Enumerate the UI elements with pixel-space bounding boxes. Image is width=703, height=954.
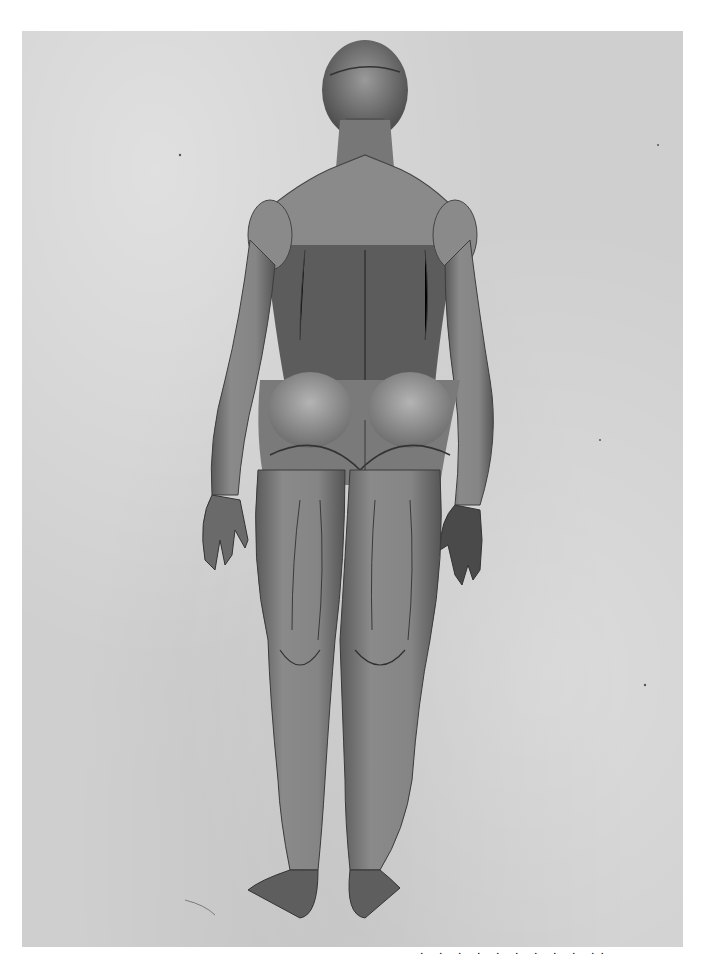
ecorche-figure-back-view: [22, 31, 683, 947]
gluteal-region: [258, 372, 460, 485]
left-leg: [248, 470, 345, 918]
right-leg: [340, 470, 441, 918]
anatomical-plate: [22, 31, 683, 947]
plate-caption: · · · · · · · · · ··: [420, 948, 610, 954]
